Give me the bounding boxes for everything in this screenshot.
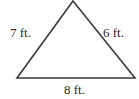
triangle-figure: 7 ft. 6 ft. 8 ft. (0, 0, 139, 99)
side-label-right: 6 ft. (103, 26, 124, 39)
side-label-bottom: 8 ft. (64, 83, 85, 96)
side-label-left: 7 ft. (10, 26, 31, 39)
